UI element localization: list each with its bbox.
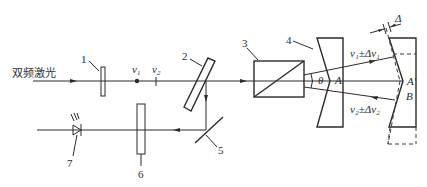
leader-1 bbox=[89, 61, 99, 71]
v2-label: ν2 bbox=[152, 63, 161, 77]
label-4: 4 bbox=[286, 34, 292, 46]
leader-2 bbox=[190, 59, 202, 66]
point-A-prime-label: A′ bbox=[406, 75, 417, 87]
delta-arrowhead-2 bbox=[390, 24, 396, 28]
beam-arrow-lower bbox=[173, 128, 180, 132]
beam-arrow-mid bbox=[240, 79, 247, 83]
label-3: 3 bbox=[242, 37, 248, 49]
input-label: 双频激光 bbox=[12, 66, 56, 80]
upper-beam-label: ν₁±Δν₁ bbox=[350, 47, 380, 59]
leader-5 bbox=[206, 135, 217, 147]
prism-diagonal bbox=[254, 61, 304, 97]
beam-arrow-down bbox=[204, 95, 208, 102]
displaced-left-line bbox=[388, 127, 390, 144]
component-6-polarizer bbox=[137, 104, 145, 154]
delta-label: Δ bbox=[394, 12, 401, 24]
delta-arrowhead-1 bbox=[378, 29, 384, 32]
label-7: 7 bbox=[67, 157, 73, 169]
point-B-label: B bbox=[406, 90, 413, 102]
label-1: 1 bbox=[81, 53, 87, 65]
point-A-label: A bbox=[334, 74, 342, 86]
leader-4 bbox=[293, 41, 313, 49]
dual-frequency-laser-interferometer-diagram: 双频激光 1 ν1 ν2 2 5 6 7 3 θ bbox=[0, 0, 427, 187]
label-5: 5 bbox=[218, 144, 224, 156]
upper-diverged-beam bbox=[304, 57, 393, 75]
label-2: 2 bbox=[182, 50, 188, 62]
label-6: 6 bbox=[138, 168, 144, 180]
beam-arrow-in bbox=[70, 79, 77, 83]
lower-diverged-beam bbox=[304, 87, 395, 100]
upper-beam-arrow bbox=[369, 60, 376, 64]
leader-7 bbox=[73, 135, 77, 156]
leader-3 bbox=[247, 48, 258, 60]
v1-polarization-dot bbox=[135, 79, 139, 83]
theta-label: θ bbox=[318, 74, 324, 86]
component-2-beamsplitter bbox=[184, 58, 215, 111]
v1-label: ν1 bbox=[132, 63, 140, 77]
light-rays-icon bbox=[71, 113, 79, 121]
lower-beam-label: ν₂±Δν₂ bbox=[350, 103, 380, 115]
